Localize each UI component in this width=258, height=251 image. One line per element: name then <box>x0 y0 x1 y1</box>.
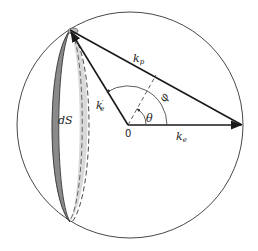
label-theta: θ <box>146 113 153 124</box>
angle-theta-arc <box>137 109 146 125</box>
label-origin: 0 <box>125 129 131 139</box>
momentum-sphere-diagram <box>0 0 258 251</box>
label-k-p: kp <box>133 53 144 66</box>
label-k-e-prime: k′e <box>96 100 104 113</box>
label-surface-element: dS <box>58 115 73 126</box>
label-k-e: ke <box>176 131 187 144</box>
